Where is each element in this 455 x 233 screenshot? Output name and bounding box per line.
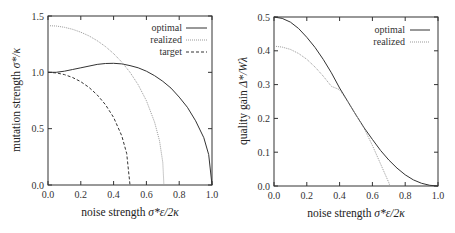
y-tick-label: 0.1 (258, 147, 271, 158)
legend-label-target: target (159, 46, 182, 57)
legend: optimal realized target (150, 22, 207, 57)
series-optimal (274, 17, 438, 186)
y-tick-label: 0.5 (258, 12, 271, 23)
x-tick-label: 0.2 (301, 190, 314, 201)
y-tick-label: 0.3 (258, 79, 271, 90)
data-curves (274, 17, 438, 186)
y-tick-label: 0.0 (32, 180, 45, 191)
x-axis-label: noise strength σ*ε/2κ (81, 206, 179, 219)
x-tick-label: 0.0 (42, 189, 55, 200)
x-tick-label: 0.8 (173, 189, 186, 200)
y-tick-label: 0.2 (258, 113, 271, 124)
x-tick-label: 0.6 (366, 190, 379, 201)
series-realized (274, 46, 390, 186)
figure: 0.00.20.40.60.81.00.00.51.01.5 optimal r… (0, 0, 455, 233)
legend-label-realized: realized (373, 36, 405, 47)
axis-ticks: 0.00.20.40.60.81.00.00.51.01.5 (32, 11, 219, 201)
data-curves (48, 26, 212, 185)
x-tick-label: 0.4 (333, 190, 346, 201)
legend-label-optimal: optimal (151, 22, 182, 33)
legend: optimal realized (373, 24, 430, 47)
y-axis-label: mutation strength σ*/κ (10, 48, 23, 152)
x-tick-label: 1.0 (432, 190, 445, 201)
x-tick-label: 0.0 (268, 190, 281, 201)
y-tick-label: 0.0 (258, 181, 271, 192)
series-optimal (48, 63, 212, 185)
x-tick-label: 0.4 (107, 189, 120, 200)
y-tick-label: 0.4 (258, 45, 271, 56)
y-tick-label: 1.5 (32, 11, 45, 22)
plot-frame (274, 17, 438, 186)
plot-frame (48, 16, 212, 185)
x-axis-label: noise strength σ*ε/2κ (307, 207, 405, 220)
x-tick-label: 0.6 (140, 189, 153, 200)
legend-label-realized: realized (150, 34, 182, 45)
y-tick-label: 0.5 (32, 123, 45, 134)
x-tick-label: 1.0 (206, 189, 219, 200)
x-tick-label: 0.2 (75, 189, 88, 200)
y-tick-label: 1.0 (32, 67, 45, 78)
series-target (48, 72, 130, 185)
y-axis-label: quality gain Δ*/Wλ (237, 57, 250, 145)
legend-label-optimal: optimal (374, 24, 405, 35)
x-tick-label: 0.8 (399, 190, 412, 201)
chart-quality-gain: 0.00.20.40.60.81.00.00.10.20.30.40.5 opt… (237, 12, 444, 221)
chart-mutation-strength: 0.00.20.40.60.81.00.00.51.01.5 optimal r… (10, 11, 218, 220)
series-realized (48, 26, 164, 185)
